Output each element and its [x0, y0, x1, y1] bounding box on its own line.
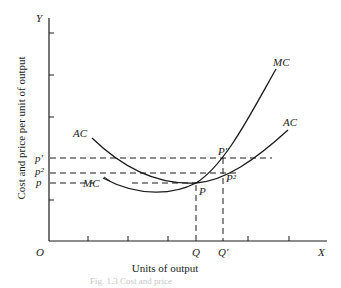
x-axis-letter: X: [317, 246, 326, 258]
quantity-label-q-prime: Q′: [218, 246, 229, 258]
point-label-p: P: [198, 185, 206, 197]
ac-label-left: AC: [72, 127, 88, 139]
mc-label-top: MC: [272, 56, 290, 68]
ac-label-right: AC: [282, 116, 298, 128]
mc-label-left: MC: [82, 177, 100, 189]
point-label-p-prime: P′: [217, 145, 228, 157]
price-label-p: p: [35, 176, 42, 188]
mc-curve: [103, 69, 276, 192]
figure-caption: Fig. 1.3 Cost and price: [90, 276, 172, 286]
cost-curve-diagram: Y X O Units of output Cost and price per…: [0, 0, 341, 288]
ac-curve: [92, 130, 288, 183]
price-label-p-prime: p′: [34, 152, 44, 164]
quantity-label-q: Q: [192, 246, 200, 258]
y-axis-title: Cost and price per unit of output: [15, 57, 27, 200]
point-label-p-two: P²: [225, 172, 237, 184]
y-axis-letter: Y: [36, 12, 44, 24]
origin-label: O: [36, 246, 44, 258]
x-axis-title: Units of output: [132, 262, 199, 274]
